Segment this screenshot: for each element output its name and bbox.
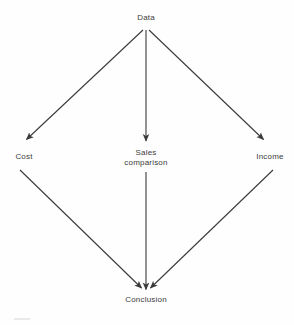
node-label-data: Data: [137, 13, 155, 23]
node-label-cost: Cost: [15, 152, 32, 162]
node-label-sales-comparison: Sales comparison: [111, 148, 181, 168]
edge-data-to-income: [149, 30, 264, 140]
edge-data-to-cost: [27, 30, 144, 140]
node-label-sales-line1: Sales: [111, 148, 181, 158]
node-label-conclusion: Conclusion: [125, 295, 167, 305]
scan-artifact: [14, 318, 30, 320]
node-label-sales-line2: comparison: [111, 158, 181, 168]
diagram-page: Data Cost Sales comparison Income Conclu…: [0, 0, 294, 325]
edge-income-to-conclusion: [151, 170, 274, 288]
node-label-income: Income: [256, 152, 283, 162]
edge-cost-to-conclusion: [20, 170, 142, 288]
